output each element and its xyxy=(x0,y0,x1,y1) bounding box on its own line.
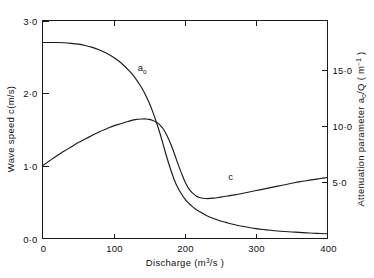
y2-tick-labels: 5·010·015·0 xyxy=(333,65,353,188)
x-axis-ticks xyxy=(115,21,257,239)
y-axis-title: Wave speed c(m/s) xyxy=(5,86,16,173)
x-axis-title: Discharge (m3/s ) xyxy=(146,257,224,268)
plot-frame xyxy=(43,21,328,239)
y2-tick-label: 10·0 xyxy=(333,121,353,132)
y-tick-labels: 0·01·02·03·0 xyxy=(23,16,37,245)
y-axis-ticks xyxy=(43,22,49,167)
curve-ao xyxy=(43,43,328,234)
curve-label-ao: ao xyxy=(138,62,147,74)
x-tick-label: 400 xyxy=(320,243,336,254)
x-tick-label: 300 xyxy=(248,243,264,254)
x-tick-label: 100 xyxy=(106,243,122,254)
curve-label-c: c xyxy=(228,171,233,182)
data-curves xyxy=(43,43,328,234)
y2-axis-title-tail: ) xyxy=(355,51,366,57)
chart-svg: 0100200300400 0·01·02·03·0 5·010·015·0 a… xyxy=(0,0,374,278)
y2-axis-ticks xyxy=(322,71,328,183)
curve-c xyxy=(43,119,328,199)
y2-tick-label: 5·0 xyxy=(333,177,347,188)
chart-figure: 0100200300400 0·01·02·03·0 5·010·015·0 a… xyxy=(0,0,374,278)
x-tick-labels: 0100200300400 xyxy=(41,243,337,254)
x-tick-label: 200 xyxy=(177,243,193,254)
y-tick-label: 1·0 xyxy=(23,161,37,172)
x-axis-title-tail: /s ) xyxy=(210,257,224,268)
y2-axis-title-superscript: −1 xyxy=(355,58,362,66)
y2-axis-title-mid: /Q ( m xyxy=(355,66,366,94)
y2-tick-label: 15·0 xyxy=(333,65,353,76)
y-tick-label: 2·0 xyxy=(23,88,37,99)
curve-annotations: aoc xyxy=(138,62,233,182)
y-tick-label: 3·0 xyxy=(23,16,37,27)
x-tick-label: 0 xyxy=(41,243,46,254)
curve-label-subscript: o xyxy=(143,68,147,75)
axis-frame xyxy=(43,21,328,239)
y-tick-label: 0·0 xyxy=(23,234,37,245)
y2-axis-title: Attenuation parameter ao/Q ( m−1 ) xyxy=(355,51,368,206)
